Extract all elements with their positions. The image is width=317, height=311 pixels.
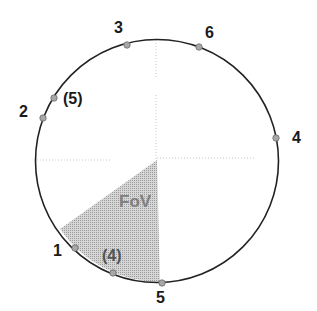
point-label: (4): [102, 248, 122, 264]
point-marker: [124, 42, 130, 48]
point-label: 1: [53, 243, 62, 259]
point-marker: [110, 270, 116, 276]
point-label: 6: [205, 25, 214, 41]
point-marker: [40, 115, 46, 121]
diagram-canvas: [0, 0, 317, 311]
point-marker: [51, 95, 57, 101]
point-label: 5: [156, 290, 165, 306]
point-marker: [159, 280, 165, 286]
point-label: 4: [292, 130, 301, 146]
point-label: (5): [63, 91, 83, 107]
point-marker: [196, 44, 202, 50]
fov-diagram: FoV 123456(5)(4): [0, 0, 317, 311]
point-marker: [72, 245, 78, 251]
point-label: 3: [114, 20, 123, 36]
point-label: 2: [19, 104, 28, 120]
point-marker: [273, 135, 279, 141]
fov-label: FoV: [119, 193, 151, 210]
